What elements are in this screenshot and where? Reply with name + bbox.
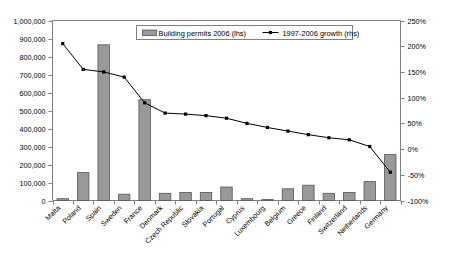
bar-france xyxy=(139,100,150,201)
bar-spain xyxy=(98,45,109,201)
bar-group xyxy=(262,200,273,201)
x-axis-category-label: Poland xyxy=(60,204,82,226)
left-axis-tick-label: 800,000 xyxy=(20,53,46,62)
growth-point-netherlands xyxy=(368,145,371,148)
bar-switzerland xyxy=(344,192,355,200)
growth-point-cyprus xyxy=(245,122,248,125)
x-axis-category-label: Slovakia xyxy=(180,204,206,230)
growth-point-malta xyxy=(61,42,64,45)
growth-point-germany xyxy=(389,171,392,174)
legend-label-bar: Building permits 2006 (lhs) xyxy=(159,29,247,38)
bar-denmark xyxy=(159,193,170,200)
bar-group xyxy=(139,100,150,201)
bar-cyprus xyxy=(241,199,252,201)
right-axis-tick-label: 100% xyxy=(408,94,427,103)
legend-marker-point xyxy=(269,31,272,34)
right-axis-tick-label: -50% xyxy=(408,171,425,180)
bar-czech-republic xyxy=(180,192,191,200)
bar-poland xyxy=(77,173,88,201)
x-axis-category-label: Belgium xyxy=(263,204,288,229)
bar-malta xyxy=(57,199,68,201)
right-axis-tick-label: 50% xyxy=(408,119,423,128)
bar-slovakia xyxy=(200,192,211,200)
bar-group xyxy=(159,193,170,200)
bar-group xyxy=(303,185,314,200)
left-axis-tick-label: 600,000 xyxy=(20,89,46,98)
left-axis-tick-label: 1,000,000 xyxy=(14,17,46,26)
bar-sweden xyxy=(118,194,129,200)
bar-finland xyxy=(323,193,334,200)
building-permits-growth-chart: 0100,000200,000300,000400,000500,000600,… xyxy=(0,0,455,268)
bar-greece xyxy=(303,185,314,200)
bar-group xyxy=(323,193,334,200)
bar-group xyxy=(344,192,355,200)
growth-point-poland xyxy=(82,68,85,71)
right-axis-tick-label: 0% xyxy=(408,145,419,154)
bar-portugal xyxy=(221,187,232,201)
left-axis-tick-label: 200,000 xyxy=(20,161,46,170)
growth-point-france xyxy=(143,101,146,104)
right-axis-tick-label: 250% xyxy=(408,17,427,26)
bar-group xyxy=(282,189,293,201)
bar-group xyxy=(118,194,129,200)
bar-luxembourg xyxy=(262,200,273,201)
legend-label-line: 1997-2006 growth (rhs) xyxy=(283,29,360,38)
growth-point-finland xyxy=(327,136,330,139)
bar-group xyxy=(221,187,232,201)
growth-point-sweden xyxy=(123,75,126,78)
bar-group xyxy=(98,45,109,201)
growth-point-portugal xyxy=(225,117,228,120)
growth-point-czech-republic xyxy=(184,113,187,116)
bar-group xyxy=(77,173,88,201)
growth-point-switzerland xyxy=(348,138,351,141)
x-axis-category-label: Sweden xyxy=(99,204,124,229)
growth-point-denmark xyxy=(163,111,166,114)
x-axis-category-label: Greece xyxy=(285,204,308,227)
left-axis-tick-label: 400,000 xyxy=(20,125,46,134)
right-axis-tick-label: 200% xyxy=(408,42,427,51)
bar-germany xyxy=(385,155,396,201)
bar-group xyxy=(385,155,396,201)
x-axis-category-label: Portugal xyxy=(201,203,227,229)
right-axis-tick-label: 150% xyxy=(408,68,427,77)
bar-group xyxy=(180,192,191,200)
bar-netherlands xyxy=(364,182,375,201)
growth-point-luxembourg xyxy=(266,126,269,129)
bar-group xyxy=(241,199,252,201)
bar-belgium xyxy=(282,189,293,201)
growth-point-spain xyxy=(102,70,105,73)
bar-group xyxy=(57,199,68,201)
left-axis-tick-label: 500,000 xyxy=(20,107,46,116)
left-axis-tick-label: 700,000 xyxy=(20,71,46,80)
chart-legend: Building permits 2006 (lhs)1997-2006 gro… xyxy=(137,26,360,40)
left-axis-tick-label: 300,000 xyxy=(20,143,46,152)
left-axis-tick-label: 900,000 xyxy=(20,35,46,44)
growth-point-slovakia xyxy=(204,114,207,117)
bar-group xyxy=(200,192,211,200)
right-axis-tick-label: -100% xyxy=(408,197,429,206)
bar-group xyxy=(364,182,375,201)
legend-swatch-bar xyxy=(143,30,157,36)
growth-line xyxy=(63,44,391,173)
growth-point-belgium xyxy=(286,129,289,132)
left-axis-tick-label: 0 xyxy=(42,197,46,206)
chart-container: 0100,000200,000300,000400,000500,000600,… xyxy=(0,0,455,268)
growth-point-greece xyxy=(307,133,310,136)
left-axis-tick-label: 100,000 xyxy=(20,179,46,188)
